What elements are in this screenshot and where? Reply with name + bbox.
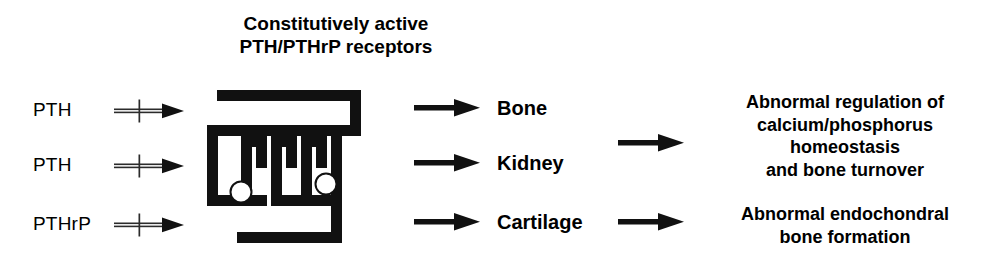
heading-line-2: PTH/PTHrP receptors [192,35,480,58]
outcome-text-endochondral: Abnormal endochondral bone formation [700,203,990,248]
arrow-right-icon [414,97,482,119]
ligand-label-pthrp: PTHrP [33,214,91,233]
outcome-text-calcium-phosphorus: Abnormal regulation of calcium/phosphoru… [700,91,990,181]
arrow-right-icon [618,132,686,154]
blocked-arrow-icon [114,98,198,124]
arrow-right-icon [618,211,686,233]
outcome-line: and bone turnover [700,159,990,182]
arrow-right-icon [414,211,482,233]
binding-site-circle-right [316,174,337,195]
outcome-line: homeostasis [700,136,990,159]
seven-transmembrane-receptor-glyph [205,84,375,254]
blocked-arrow-icon [114,153,198,179]
target-label-kidney: Kidney [497,153,564,173]
binding-site-circle-left [231,182,252,203]
heading-line-1: Constitutively active [192,12,480,35]
target-label-cartilage: Cartilage [497,212,583,232]
ligand-label-pth-2: PTH [33,155,72,174]
diagram-heading: Constitutively active PTH/PTHrP receptor… [192,12,480,58]
outcome-line: calcium/phosphorus [700,114,990,137]
ligand-label-pth-1: PTH [33,100,72,119]
target-label-bone: Bone [497,98,547,118]
outcome-line: Abnormal endochondral [700,203,990,226]
outcome-line: Abnormal regulation of [700,91,990,114]
outcome-line: bone formation [700,226,990,249]
blocked-arrow-icon [114,212,198,238]
pathway-diagram: Constitutively active PTH/PTHrP receptor… [0,0,993,273]
arrow-right-icon [414,152,482,174]
